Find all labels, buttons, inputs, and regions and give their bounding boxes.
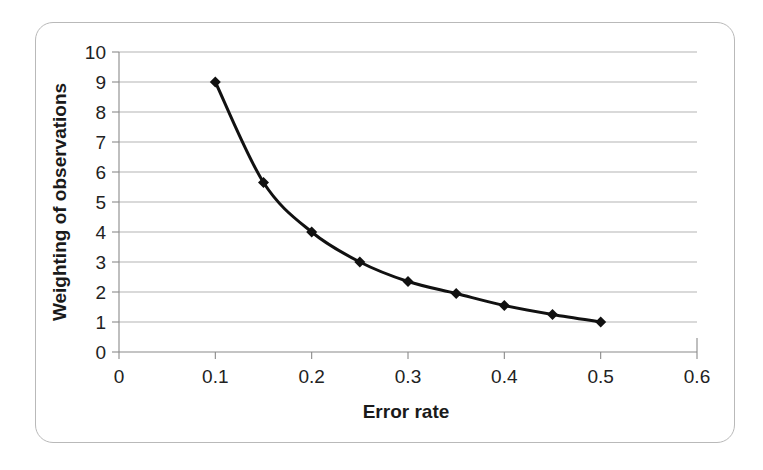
y-tick-label: 4 — [95, 222, 106, 243]
line-chart: 012345678910 00.10.20.30.40.50.6 Error r… — [0, 0, 763, 470]
x-tick-label: 0 — [114, 366, 125, 387]
y-tick-label: 7 — [95, 132, 106, 153]
axes-group — [112, 52, 697, 359]
y-tick-labels-group: 012345678910 — [85, 42, 107, 363]
y-tick-label: 0 — [95, 342, 106, 363]
data-point-marker — [451, 288, 462, 299]
y-tick-label: 2 — [95, 282, 106, 303]
y-tick-label: 6 — [95, 162, 106, 183]
x-tick-label: 0.1 — [202, 366, 228, 387]
y-tick-label: 5 — [95, 192, 106, 213]
x-tick-label: 0.2 — [298, 366, 324, 387]
data-point-marker — [210, 77, 221, 88]
x-tick-label: 0.4 — [491, 366, 518, 387]
data-point-marker — [547, 309, 558, 320]
y-tick-label: 1 — [95, 312, 106, 333]
x-axis-title: Error rate — [363, 401, 450, 422]
x-tick-label: 0.6 — [684, 366, 710, 387]
data-point-marker — [499, 300, 510, 311]
y-tick-label: 8 — [95, 102, 106, 123]
y-tick-label: 10 — [85, 42, 106, 63]
x-tick-label: 0.5 — [587, 366, 613, 387]
data-point-marker — [354, 257, 365, 268]
x-tick-label: 0.3 — [395, 366, 421, 387]
y-tick-label: 9 — [95, 72, 106, 93]
data-point-marker — [403, 276, 414, 287]
y-axis-title: Weighting of observations — [49, 83, 70, 321]
x-tick-labels-group: 00.10.20.30.40.50.6 — [114, 366, 711, 387]
y-tick-label: 3 — [95, 252, 106, 273]
data-point-marker — [595, 317, 606, 328]
chart-page: 012345678910 00.10.20.30.40.50.6 Error r… — [0, 0, 763, 470]
